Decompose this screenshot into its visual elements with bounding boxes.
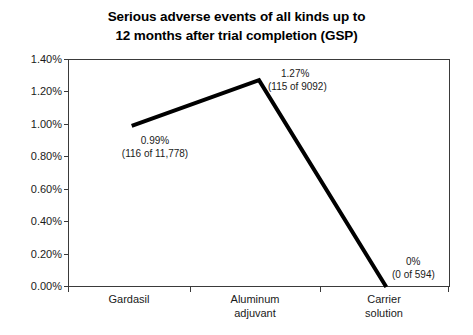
x-tick-mark-2 <box>190 287 191 292</box>
x-category-label-gardasil-line-1: Gardasil <box>69 292 189 306</box>
y-axis: 1.40% 1.20% 1.00% 0.80% 0.60% 0.40% 0.20… <box>0 0 473 335</box>
x-category-label-aluminum-adjuvant: Aluminum adjuvant <box>195 292 315 320</box>
x-category-label-carrier-solution: Carrier solution <box>324 292 444 320</box>
y-tick-mark-5 <box>64 189 69 190</box>
data-label-gardasil-count: (116 of 11,778) <box>90 147 220 160</box>
x-category-label-aluminum-adjuvant-line-1: Aluminum <box>195 292 315 306</box>
data-label-carrier-solution: 0% (0 of 594) <box>392 255 472 281</box>
data-label-gardasil-value: 0.99% <box>90 134 220 147</box>
y-tick-label-8: 0.00% <box>4 281 62 292</box>
data-label-aluminum-adjuvant-count: (115 of 9092) <box>268 80 388 93</box>
y-tick-label-4: 0.80% <box>4 151 62 162</box>
x-category-label-carrier-solution-line-2: solution <box>324 306 444 320</box>
y-tick-mark-7 <box>64 254 69 255</box>
x-category-label-aluminum-adjuvant-line-2: adjuvant <box>195 306 315 320</box>
x-tick-mark-4 <box>448 287 449 292</box>
y-tick-mark-3 <box>64 124 69 125</box>
y-tick-label-7: 0.20% <box>4 249 62 260</box>
x-category-label-carrier-solution-line-1: Carrier <box>324 292 444 306</box>
y-tick-label-1: 1.40% <box>4 54 62 65</box>
y-tick-mark-1 <box>64 59 69 60</box>
y-tick-label-5: 0.60% <box>4 184 62 195</box>
data-label-carrier-solution-count: (0 of 594) <box>392 268 472 281</box>
y-tick-label-6: 0.40% <box>4 216 62 227</box>
chart-screenshot: Serious adverse events of all kinds up t… <box>0 0 473 335</box>
data-label-gardasil: 0.99% (116 of 11,778) <box>90 134 220 160</box>
y-tick-mark-4 <box>64 156 69 157</box>
y-tick-mark-2 <box>64 91 69 92</box>
y-tick-label-3: 1.00% <box>4 119 62 130</box>
x-tick-mark-3 <box>320 287 321 292</box>
y-tick-label-2: 1.20% <box>4 86 62 97</box>
x-category-label-gardasil: Gardasil <box>69 292 189 306</box>
data-label-aluminum-adjuvant: 1.27% (115 of 9092) <box>268 67 388 93</box>
y-tick-mark-6 <box>64 221 69 222</box>
data-label-carrier-solution-value: 0% <box>406 255 472 268</box>
data-label-aluminum-adjuvant-value: 1.27% <box>281 67 388 80</box>
